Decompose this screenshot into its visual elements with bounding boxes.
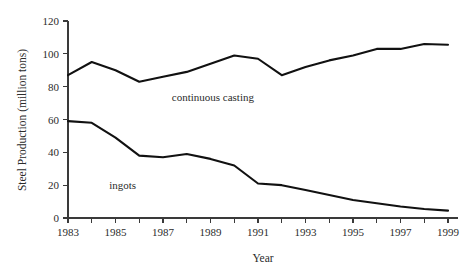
x-tick-label: 1987 bbox=[152, 226, 175, 238]
x-tick-label: 1995 bbox=[342, 226, 365, 238]
y-axis-title: Steel Production (million tons) bbox=[16, 49, 29, 191]
x-tick-label: 1991 bbox=[247, 226, 269, 238]
x-tick-label: 1997 bbox=[390, 226, 413, 238]
x-axis-title: Year bbox=[252, 252, 273, 264]
y-tick-label: 120 bbox=[43, 15, 60, 27]
steel-production-line-chart: 020406080100120 198319851987198919911993… bbox=[0, 0, 473, 273]
x-tick-label: 1989 bbox=[200, 226, 223, 238]
y-tick-label: 100 bbox=[43, 48, 60, 60]
series-annotations: continuous castingingots bbox=[109, 91, 254, 191]
ingots-label: ingots bbox=[109, 179, 136, 191]
x-tick-label: 1983 bbox=[57, 226, 80, 238]
continuous-casting-label: continuous casting bbox=[172, 91, 255, 103]
y-tick-label: 0 bbox=[54, 212, 60, 224]
x-axis-ticks: 198319851987198919911993199519971999 bbox=[57, 218, 460, 238]
x-tick-label: 1985 bbox=[105, 226, 128, 238]
x-tick-label: 1999 bbox=[437, 226, 460, 238]
series-line-continuous-casting bbox=[68, 44, 448, 82]
chart-canvas: 020406080100120 198319851987198919911993… bbox=[0, 0, 473, 273]
y-tick-label: 40 bbox=[48, 146, 60, 158]
x-tick-label: 1993 bbox=[295, 226, 318, 238]
series-line-ingots bbox=[68, 121, 448, 210]
y-axis-ticks: 020406080100120 bbox=[43, 15, 69, 224]
y-tick-label: 60 bbox=[48, 114, 60, 126]
y-tick-label: 80 bbox=[48, 81, 60, 93]
y-tick-label: 20 bbox=[48, 179, 60, 191]
